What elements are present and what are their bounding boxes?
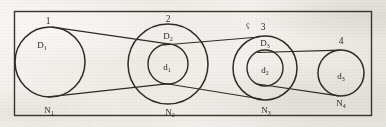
diagram-canvas: 1 D1 N1 2 D2 d1 N2 — [0, 0, 386, 127]
pulley-1-diameter-label: D1 — [37, 40, 47, 51]
pulley-4-speed-label: N4 — [336, 98, 346, 109]
pulley-1-outer-circle — [15, 27, 85, 97]
pulley-stage-1: 1 D1 N1 — [15, 16, 85, 116]
belt-line-lower-1 — [48, 84, 167, 97]
pulley-4-diameter-subscript: 3 — [342, 76, 345, 82]
pulley-3-speed-label: N3 — [261, 105, 271, 116]
pulley-2-inner-diameter-label: d1 — [163, 62, 171, 73]
pulley-1-speed-subscript: 1 — [51, 110, 54, 116]
pulley-2-diameter-subscript: 2 — [170, 36, 173, 42]
pulley-2-index-label: 2 — [166, 14, 171, 24]
pulley-2-diameter-label: D2 — [163, 31, 173, 42]
pulley-2-speed-label: N2 — [165, 107, 175, 118]
pulley-3-diameter-subscript: 3 — [267, 43, 270, 49]
pulley-2-speed-subscript: 2 — [172, 112, 175, 118]
diagram-frame — [15, 12, 372, 116]
pulley-2-inner-subscript: 1 — [168, 67, 171, 73]
pulley-4-index-label: 4 — [339, 36, 344, 46]
pulley-2-inner-circle — [148, 44, 188, 84]
pulley-stage-4: 4 d3 N4 — [318, 36, 364, 109]
belt-stage3-to-stage4 — [258, 50, 341, 96]
pulley-4-speed-subscript: 4 — [343, 103, 346, 109]
pulley-4-diameter-label: d3 — [337, 71, 345, 82]
pulley-stage-2: 2 D2 d1 N2 — [128, 14, 208, 118]
pulley-3-speed-subscript: 3 — [268, 110, 271, 116]
stray-pen-mark: ʕ — [246, 21, 250, 31]
pulley-3-diameter-label: D3 — [260, 38, 270, 49]
pulley-stage-3: ʕ 3 D3 d2 N3 — [233, 21, 297, 116]
belt-drive-diagram: 1 D1 N1 2 D2 d1 N2 — [0, 0, 386, 127]
pulley-3-inner-diameter-label: d2 — [261, 65, 269, 76]
pulley-3-inner-subscript: 2 — [266, 70, 269, 76]
pulley-3-index-label: 3 — [261, 22, 266, 32]
belt-line-upper-1 — [53, 27, 171, 44]
pulley-1-diameter-subscript: 1 — [44, 45, 47, 51]
pulley-1-index-label: 1 — [46, 16, 51, 26]
belt-stage1-to-stage2 — [48, 27, 170, 97]
pulley-1-speed-label: N1 — [44, 105, 54, 116]
belt-line-lower-2 — [165, 84, 261, 100]
